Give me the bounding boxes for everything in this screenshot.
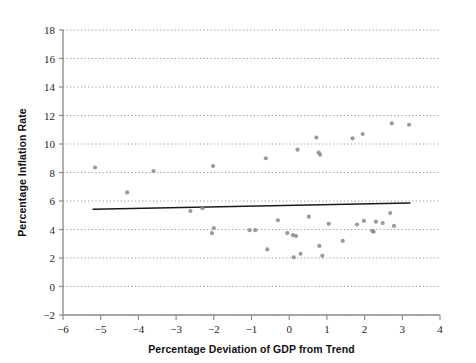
x-tick-label: 2 (362, 323, 368, 335)
x-tick-label: 0 (286, 323, 292, 335)
data-point (361, 132, 365, 136)
trend-line (93, 203, 410, 209)
y-tick-label: 18 (44, 24, 56, 36)
data-point (151, 169, 155, 173)
x-tick-label: −2 (208, 323, 220, 335)
data-point (350, 136, 354, 140)
data-point (314, 135, 318, 139)
x-tick-label: 1 (324, 323, 330, 335)
data-point (372, 230, 376, 234)
x-tick-label: 3 (400, 323, 406, 335)
data-point (200, 206, 204, 210)
y-tick-label: 16 (44, 53, 56, 65)
y-tick-label: 10 (44, 138, 56, 150)
data-point (362, 219, 366, 223)
y-axis-title: Percentage Inflation Rate (16, 108, 28, 237)
data-point (93, 165, 97, 169)
y-tick-label: 14 (44, 81, 56, 93)
data-point (212, 226, 216, 230)
plot-svg: −2024681012141618−6−5−4−3−2−101234Percen… (0, 0, 476, 363)
y-tick-label: 8 (50, 167, 56, 179)
data-point (264, 156, 268, 160)
data-point (374, 220, 378, 224)
scatter-chart-figure: −2024681012141618−6−5−4−3−2−101234Percen… (0, 0, 476, 363)
data-point (381, 221, 385, 225)
data-point (276, 218, 280, 222)
data-point (125, 190, 129, 194)
data-point (390, 121, 394, 125)
data-point (188, 209, 192, 213)
y-tick-label: 0 (50, 281, 56, 293)
y-tick-label: 12 (44, 110, 55, 122)
data-point (320, 254, 324, 258)
x-tick-label: −6 (57, 323, 69, 335)
y-tick-label: 6 (50, 195, 56, 207)
data-point (211, 164, 215, 168)
x-axis-title: Percentage Deviation of GDP from Trend (148, 343, 355, 355)
x-tick-label: −5 (95, 323, 107, 335)
data-point (317, 244, 321, 248)
data-point (355, 222, 359, 226)
x-tick-label: 4 (437, 323, 443, 335)
y-tick-label: 2 (50, 252, 56, 264)
data-point (298, 252, 302, 256)
data-point (327, 222, 331, 226)
data-point (248, 228, 252, 232)
data-point (388, 211, 392, 215)
data-point (294, 234, 298, 238)
y-tick-label: −2 (43, 309, 55, 321)
data-point (285, 231, 289, 235)
data-point (210, 231, 214, 235)
data-point (392, 224, 396, 228)
data-point (318, 153, 322, 157)
data-point (295, 148, 299, 152)
data-point (341, 239, 345, 243)
data-point (292, 255, 296, 259)
y-tick-label: 4 (50, 224, 56, 236)
data-point (253, 228, 257, 232)
x-tick-label: −3 (170, 323, 182, 335)
data-point (307, 215, 311, 219)
data-point (407, 123, 411, 127)
data-point (265, 247, 269, 251)
x-tick-label: −4 (133, 323, 145, 335)
x-tick-label: −1 (246, 323, 258, 335)
